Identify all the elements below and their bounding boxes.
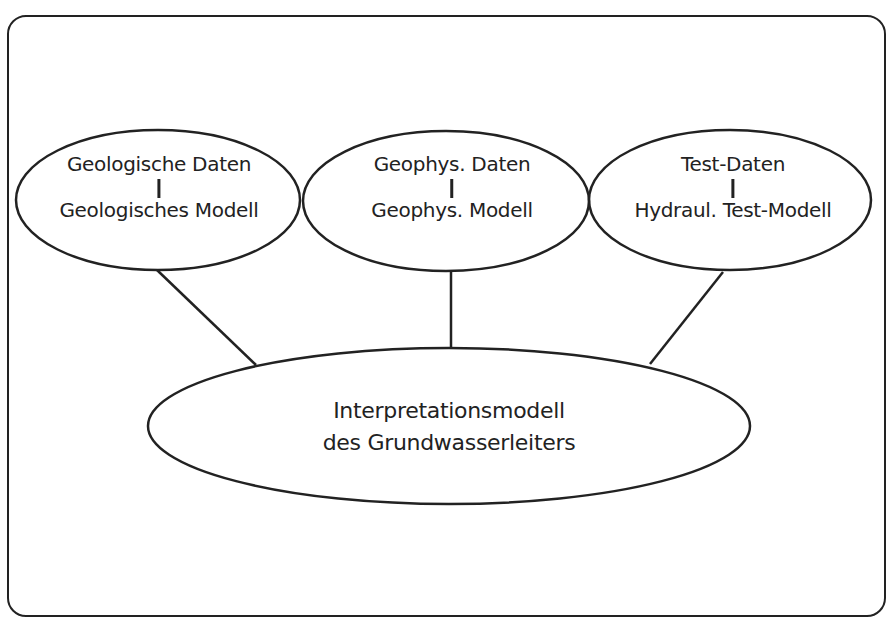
node-geophysik-bottom-label: Geophys. Modell [371,198,533,222]
node-geologisch-bottom-label: Geologisches Modell [59,198,258,222]
node-test: Test-Daten Hydraul. Test-Modell [634,152,831,222]
node-geophysik-separator [451,179,454,198]
outer-frame [8,16,885,616]
central-node: Interpretationsmodell des Grundwasserlei… [323,395,576,459]
central-node-line1: Interpretationsmodell [323,395,576,427]
diagram-graphics [0,0,891,624]
node-test-top-label: Test-Daten [634,152,831,176]
node-geologisch-separator [157,179,160,198]
central-node-line2: des Grundwasserleiters [323,427,576,459]
node-test-separator [732,179,735,198]
node-test-bottom-label: Hydraul. Test-Modell [634,198,831,222]
diagram-canvas: Geologische Daten Geologisches Modell Ge… [0,0,891,624]
node-geologisch: Geologische Daten Geologisches Modell [59,152,258,222]
node-geophysik: Geophys. Daten Geophys. Modell [371,152,533,222]
node-geophysik-top-label: Geophys. Daten [371,152,533,176]
node-geologisch-top-label: Geologische Daten [59,152,258,176]
